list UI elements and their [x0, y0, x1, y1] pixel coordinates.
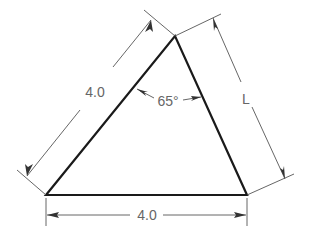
triangle-drawing: 4.0 4.0 L 65°: [0, 0, 310, 236]
left-extension-line-bottom: [17, 170, 46, 195]
right-dimension-label: L: [242, 91, 250, 107]
left-dimension-label: 4.0: [85, 84, 105, 100]
right-dimension-line-lower: [252, 107, 285, 179]
left-dimension-line-upper: [113, 20, 151, 67]
right-arrow-top-icon: [213, 18, 218, 31]
right-extension-line-bottom: [247, 174, 294, 195]
right-arrow-bottom-icon: [280, 166, 285, 179]
angle-annotation: 65°: [137, 89, 201, 109]
angle-arrow-left-icon: [137, 89, 148, 96]
bottom-dimension-label: 4.0: [137, 207, 157, 223]
angle-label: 65°: [157, 93, 178, 109]
left-dimension-line-lower: [27, 110, 80, 176]
left-dimension: 4.0: [17, 10, 175, 195]
bottom-dimension: 4.0: [46, 198, 247, 226]
